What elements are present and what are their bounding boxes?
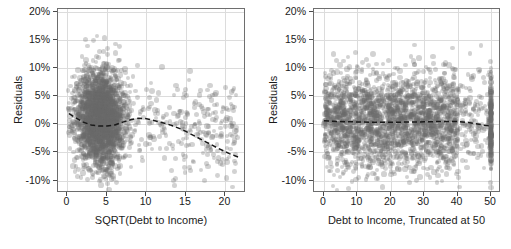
y-tick-mark — [309, 39, 313, 40]
plot-area-left — [57, 8, 245, 192]
x-tick-label: 30 — [417, 196, 429, 207]
y-tick-label: 20% — [29, 6, 50, 17]
y-tick-label: 5% — [35, 90, 50, 101]
y-tick-mark — [309, 11, 313, 12]
plot-area-right — [313, 8, 500, 192]
y-tick-mark — [53, 123, 57, 124]
y-tick-mark — [53, 11, 57, 12]
y-axis-label-left: Residuals — [12, 76, 24, 124]
y-tick-mark — [53, 151, 57, 152]
y-tick-mark — [309, 180, 313, 181]
y-tick-label: 0% — [291, 118, 306, 129]
x-tick-label: 5 — [103, 196, 109, 207]
loess-trend-line — [314, 9, 500, 192]
y-axis-label-right: Residuals — [267, 76, 279, 124]
y-tick-label: 10% — [29, 62, 50, 73]
y-tick-mark — [53, 95, 57, 96]
x-tick-label: 0 — [64, 196, 70, 207]
x-tick-label: 10 — [140, 196, 152, 207]
x-axis-label-right: Debt to Income, Truncated at 50 — [328, 214, 485, 226]
x-tick-label: 20 — [219, 196, 231, 207]
y-tick-label: 15% — [29, 34, 50, 45]
y-tick-mark — [53, 39, 57, 40]
y-tick-label: -5% — [31, 146, 50, 157]
x-tick-label: 20 — [384, 196, 396, 207]
x-tick-label: 40 — [451, 196, 463, 207]
loess-trend-line — [58, 9, 245, 192]
chart-panel-right: Residuals Debt to Income, Truncated at 5… — [255, 0, 511, 249]
y-tick-mark — [53, 67, 57, 68]
y-tick-mark — [309, 67, 313, 68]
x-tick-label: 0 — [320, 196, 326, 207]
y-tick-label: -5% — [287, 146, 306, 157]
y-tick-label: -10% — [281, 174, 306, 185]
chart-panel-left: Residuals SQRT(Debt to Income) 20%15%10%… — [0, 0, 256, 249]
residual-diagnostic-figure: Residuals SQRT(Debt to Income) 20%15%10%… — [0, 0, 511, 249]
y-tick-label: 0% — [35, 118, 50, 129]
y-tick-label: 5% — [291, 90, 306, 101]
y-tick-label: 10% — [285, 62, 306, 73]
x-tick-label: 50 — [484, 196, 496, 207]
y-tick-label: -10% — [25, 174, 50, 185]
y-tick-label: 20% — [285, 6, 306, 17]
y-tick-mark — [309, 95, 313, 96]
x-tick-label: 10 — [351, 196, 363, 207]
y-tick-mark — [309, 123, 313, 124]
y-tick-mark — [53, 180, 57, 181]
y-tick-mark — [309, 151, 313, 152]
x-tick-label: 15 — [179, 196, 191, 207]
y-tick-label: 15% — [285, 34, 306, 45]
x-axis-label-left: SQRT(Debt to Income) — [95, 214, 207, 226]
